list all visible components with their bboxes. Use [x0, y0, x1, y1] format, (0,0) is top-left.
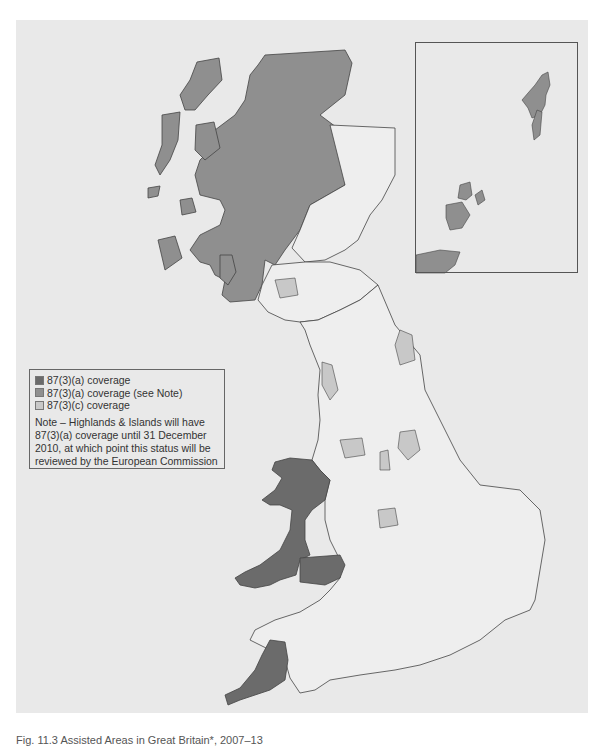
legend-note: Note – Highlands & Islands will have 87(… [35, 416, 219, 468]
cornwall-region [225, 640, 288, 705]
legend-item-87-3-c: 87(3)(c) coverage [35, 399, 219, 412]
legend-item-87-3-a-note: 87(3)(a) coverage (see Note) [35, 387, 219, 400]
legend-label: 87(3)(a) coverage (see Note) [47, 387, 182, 399]
inset-northern-isles [415, 42, 578, 273]
swatch-dark [35, 376, 44, 385]
legend-label: 87(3)(c) coverage [47, 399, 130, 411]
map-legend: 87(3)(a) coverage 87(3)(a) coverage (see… [29, 369, 225, 469]
swatch-light [35, 401, 44, 410]
legend-label: 87(3)(a) coverage [47, 374, 130, 386]
legend-item-87-3-a: 87(3)(a) coverage [35, 374, 219, 387]
swatch-medium [35, 388, 44, 397]
figure-caption: Fig. 11.3 Assisted Areas in Great Britai… [16, 734, 263, 746]
